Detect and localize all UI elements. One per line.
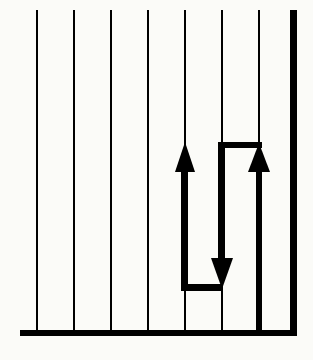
arrow-up-icon (175, 142, 195, 172)
top-connector (218, 142, 262, 148)
right-up-shaft (256, 168, 262, 330)
floor-bar (20, 330, 297, 336)
middle-down-shaft (218, 142, 225, 262)
right-wall (290, 10, 297, 336)
arrow-path-diagram (0, 0, 313, 360)
bottom-connector (181, 284, 223, 291)
thin-vertical-lines (37, 10, 259, 332)
left-up-shaft (181, 168, 188, 291)
